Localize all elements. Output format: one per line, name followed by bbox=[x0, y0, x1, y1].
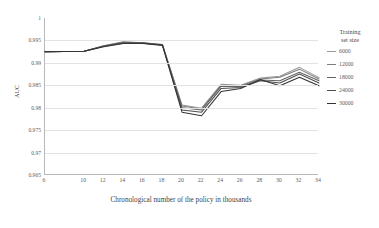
legend-line-swatch bbox=[327, 77, 336, 78]
legend-line-swatch bbox=[327, 103, 336, 104]
gridline bbox=[45, 63, 318, 64]
gridline bbox=[45, 85, 318, 86]
legend: Training set size 6000120001800024000300… bbox=[327, 28, 379, 109]
legend-label: 30000 bbox=[339, 100, 354, 106]
legend-title-line1: Training bbox=[327, 28, 373, 36]
gridline bbox=[45, 130, 318, 131]
x-axis-title: Chronological number of the policy in th… bbox=[44, 196, 318, 204]
legend-label: 12000 bbox=[339, 61, 354, 67]
y-tick-label: 0.995 bbox=[1, 37, 41, 43]
series-line-6000 bbox=[45, 42, 319, 108]
legend-rows: 600012000180002400030000 bbox=[327, 45, 379, 109]
y-tick-label: 0.975 bbox=[1, 127, 41, 133]
legend-line-swatch bbox=[327, 64, 336, 65]
legend-line-swatch bbox=[327, 90, 336, 91]
y-tick-label: 0.99 bbox=[1, 60, 41, 66]
y-tick-label: 0.985 bbox=[1, 82, 41, 88]
y-axis-tick-labels: 10.9950.990.9850.980.9750.970.965 bbox=[0, 0, 41, 200]
gridline bbox=[45, 153, 318, 154]
x-tick-label: 6 bbox=[32, 177, 56, 183]
gridline bbox=[45, 108, 318, 109]
plot-area bbox=[44, 18, 318, 175]
series-container bbox=[45, 18, 319, 175]
legend-label: 24000 bbox=[339, 87, 354, 93]
x-tick-label: 34 bbox=[306, 177, 330, 183]
y-tick-label: 0.97 bbox=[1, 150, 41, 156]
gridline bbox=[45, 40, 318, 41]
legend-label: 6000 bbox=[339, 48, 351, 54]
legend-item-30000[interactable]: 30000 bbox=[327, 97, 379, 109]
y-tick-label: 0.98 bbox=[1, 105, 41, 111]
y-tick-label: 1 bbox=[1, 15, 41, 21]
series-line-12000 bbox=[45, 42, 319, 109]
legend-item-6000[interactable]: 6000 bbox=[327, 45, 379, 57]
legend-item-18000[interactable]: 18000 bbox=[327, 71, 379, 83]
auc-line-chart: 10.9950.990.9850.980.9750.970.965 AUC Ch… bbox=[0, 0, 379, 228]
legend-title-line2: set size bbox=[327, 36, 373, 44]
legend-item-12000[interactable]: 12000 bbox=[327, 58, 379, 70]
legend-label: 18000 bbox=[339, 74, 354, 80]
y-axis-title: AUC bbox=[13, 72, 20, 112]
legend-line-swatch bbox=[327, 51, 336, 52]
legend-item-24000[interactable]: 24000 bbox=[327, 84, 379, 96]
